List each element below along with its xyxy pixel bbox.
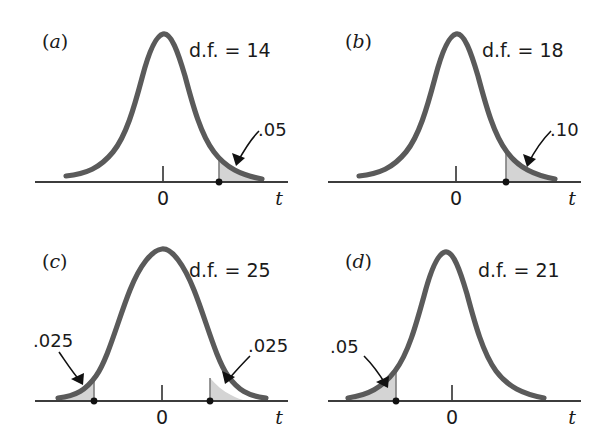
panel-d-critical-point-marker: [393, 398, 400, 405]
panel-b-critical-point-marker: [503, 179, 510, 186]
panel-b-t-axis-label: t: [568, 187, 576, 209]
panel-d-letter: (d): [345, 250, 372, 272]
panel-d-t-axis-label: t: [568, 406, 576, 428]
panel-a-letter: (a): [42, 30, 68, 52]
panel-c-letter: (c): [42, 250, 68, 272]
panel-d-df-label: d.f. = 21: [478, 259, 560, 281]
panel-a-critical-point-marker: [216, 179, 223, 186]
panel-c-critical-point-right-marker: [207, 398, 214, 405]
panel-b-letter: (b): [345, 30, 372, 52]
panel-a-df-label: d.f. = 14: [189, 39, 271, 61]
panel-d-zero-label: 0: [446, 406, 458, 428]
panel-b-tail-right-area-label: .10: [550, 119, 579, 140]
panel-a-t-axis-label: t: [275, 187, 283, 209]
panel-c-t-axis-label: t: [275, 406, 283, 428]
panel-c-zero-label: 0: [156, 406, 168, 428]
panel-d-tail-left-area-label: .05: [330, 336, 359, 357]
panel-b-zero-label: 0: [450, 187, 462, 209]
t-distribution-figure: (a) 0 t d.f. = 14 .05 (b) 0 t: [0, 0, 611, 437]
panel-c-critical-point-left-marker: [91, 398, 98, 405]
panel-c-tail-right-area-label: .025: [248, 335, 288, 356]
panel-a-tail-right-area-label: .05: [258, 119, 287, 140]
panel-b-df-label: d.f. = 18: [482, 39, 564, 61]
panel-c-tail-left-area-label: .025: [33, 330, 73, 351]
figure-background: [0, 0, 611, 437]
panel-c-df-label: d.f. = 25: [189, 259, 271, 281]
panel-a-zero-label: 0: [157, 187, 169, 209]
